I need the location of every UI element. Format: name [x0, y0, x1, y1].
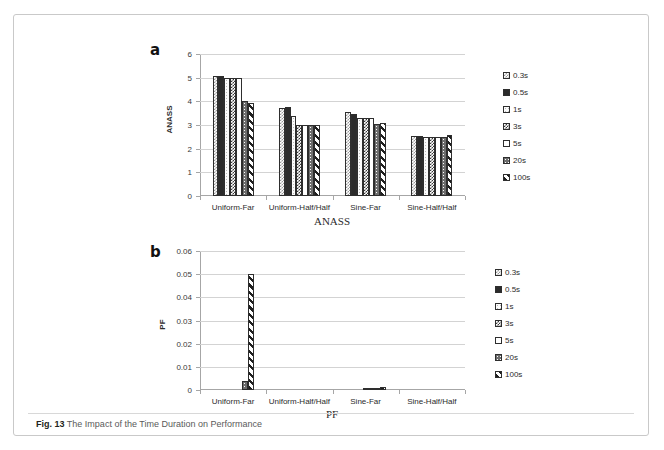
panel-a-legend: 0.3s0.5s1s3s5s20s100s: [503, 67, 583, 186]
y-tick-mark: [196, 344, 200, 345]
x-tick-mark: [333, 390, 334, 394]
y-tick-label: 4: [160, 97, 192, 106]
gridline: [200, 251, 465, 252]
figure-caption-label: Fig. 13: [36, 419, 65, 429]
legend-item-b-0.5s: 0.5s: [495, 281, 575, 298]
figure-caption: Fig. 13 The Impact of the Time Duration …: [36, 419, 262, 429]
bar-a-2-6: [380, 123, 386, 196]
legend-swatch-icon: [503, 140, 510, 147]
legend-swatch-icon: [503, 89, 510, 96]
legend-label: 0.3s: [505, 269, 520, 277]
y-tick-mark: [196, 54, 200, 55]
legend-swatch-icon: [495, 320, 502, 327]
y-tick-label: 5: [160, 73, 192, 82]
x-category-label: Sine-Half/Half: [384, 397, 479, 406]
legend-swatch-icon: [503, 72, 510, 79]
y-tick-mark: [196, 101, 200, 102]
y-tick-label: 0.02: [160, 339, 192, 348]
y-tick-label: 0: [160, 192, 192, 201]
x-tick-mark: [200, 196, 201, 200]
legend-item-b-20s: 20s: [495, 349, 575, 366]
x-tick-mark: [465, 196, 466, 200]
legend-swatch-icon: [495, 371, 502, 378]
legend-label: 100s: [513, 174, 530, 182]
legend-swatch-icon: [503, 123, 510, 130]
x-tick-mark: [200, 390, 201, 394]
panel-b-legend: 0.3s0.5s1s3s5s20s100s: [495, 264, 575, 383]
legend-label: 100s: [505, 371, 522, 379]
legend-label: 0.3s: [513, 72, 528, 80]
legend-item-b-5s: 5s: [495, 332, 575, 349]
caption-divider: [28, 413, 634, 414]
legend-item-b-0.3s: 0.3s: [495, 264, 575, 281]
legend-item-a-100s: 100s: [503, 169, 583, 186]
y-tick-label: 0.05: [160, 270, 192, 279]
y-tick-label: 0.01: [160, 362, 192, 371]
y-tick-mark: [196, 125, 200, 126]
y-tick-label: 2: [160, 144, 192, 153]
figure-caption-text: The Impact of the Time Duration on Perfo…: [67, 419, 262, 429]
legend-label: 3s: [505, 320, 513, 328]
y-tick-mark: [196, 78, 200, 79]
gridline: [200, 344, 465, 345]
bar-a-3-6: [447, 135, 453, 196]
bar-b-2-6: [380, 387, 386, 390]
gridline: [200, 321, 465, 322]
gridline: [200, 54, 465, 55]
legend-item-a-1s: 1s: [503, 101, 583, 118]
figure-card: a ANASS 0123456Uniform-FarUniform-Half/H…: [13, 14, 649, 436]
legend-swatch-icon: [503, 106, 510, 113]
legend-swatch-icon: [503, 174, 510, 181]
y-tick-label: 1: [160, 168, 192, 177]
panel-a-letter: a: [150, 41, 160, 59]
legend-label: 5s: [505, 337, 513, 345]
legend-item-a-20s: 20s: [503, 152, 583, 169]
x-tick-mark: [266, 196, 267, 200]
y-tick-mark: [196, 367, 200, 368]
y-tick-mark: [196, 251, 200, 252]
gridline: [200, 274, 465, 275]
bar-a-0-6: [248, 103, 254, 196]
y-tick-mark: [196, 297, 200, 298]
panel-a-x-axis-title: ANASS: [14, 215, 650, 227]
legend-swatch-icon: [495, 269, 502, 276]
x-tick-mark: [266, 390, 267, 394]
legend-item-b-1s: 1s: [495, 298, 575, 315]
y-tick-label: 0.03: [160, 316, 192, 325]
legend-label: 1s: [505, 303, 513, 311]
legend-label: 20s: [505, 354, 518, 362]
legend-label: 1s: [513, 106, 521, 114]
gridline: [200, 297, 465, 298]
panel-b-plot-area: 00.010.020.030.040.050.06Uniform-FarUnif…: [200, 251, 465, 390]
panel-a-plot-area: 0123456Uniform-FarUniform-Half/HalfSine-…: [200, 54, 465, 196]
x-tick-mark: [399, 196, 400, 200]
y-tick-label: 0: [160, 386, 192, 395]
legend-label: 3s: [513, 123, 521, 131]
legend-swatch-icon: [503, 157, 510, 164]
y-tick-mark: [196, 274, 200, 275]
legend-label: 5s: [513, 140, 521, 148]
x-category-label: Sine-Half/Half: [384, 203, 479, 212]
legend-item-a-3s: 3s: [503, 118, 583, 135]
legend-swatch-icon: [495, 286, 502, 293]
bar-b-0-6: [248, 274, 254, 390]
bar-a-1-6: [314, 125, 320, 196]
panel-a: a ANASS 0123456Uniform-FarUniform-Half/H…: [14, 15, 650, 230]
y-tick-label: 0.04: [160, 293, 192, 302]
legend-item-a-0.5s: 0.5s: [503, 84, 583, 101]
legend-item-b-3s: 3s: [495, 315, 575, 332]
legend-swatch-icon: [495, 303, 502, 310]
x-tick-mark: [333, 196, 334, 200]
legend-swatch-icon: [495, 354, 502, 361]
legend-label: 0.5s: [513, 89, 528, 97]
y-tick-label: 3: [160, 121, 192, 130]
panel-b: b PF 00.010.020.030.040.050.06Uniform-Fa…: [14, 230, 650, 415]
y-tick-label: 6: [160, 50, 192, 59]
x-tick-mark: [465, 390, 466, 394]
x-tick-mark: [399, 390, 400, 394]
legend-item-a-5s: 5s: [503, 135, 583, 152]
y-tick-mark: [196, 172, 200, 173]
gridline: [200, 367, 465, 368]
y-tick-mark: [196, 149, 200, 150]
legend-item-b-100s: 100s: [495, 366, 575, 383]
